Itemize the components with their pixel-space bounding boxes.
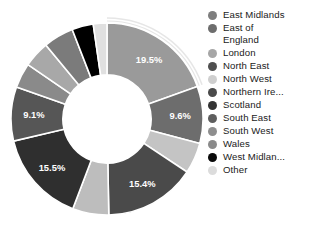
legend-swatch-icon <box>208 75 217 84</box>
donut-plot-area: 19.5%9.6%15.4%15.5%9.1% <box>8 8 206 230</box>
legend-swatch-icon <box>208 24 217 33</box>
legend-item-other[interactable]: Other <box>208 164 314 176</box>
legend-item-label: London <box>223 47 256 59</box>
slice-value-label-east-midlands: 19.5% <box>136 54 163 65</box>
legend-item-east-of-england[interactable]: East of England <box>208 22 314 46</box>
legend-item-scotland[interactable]: Scotland <box>208 99 314 111</box>
legend-item-label: East Midlands <box>223 9 285 21</box>
legend-item-london[interactable]: London <box>208 47 314 59</box>
legend-item-south-east[interactable]: South East <box>208 112 314 124</box>
legend-item-label: North East <box>223 60 269 72</box>
donut-svg: 19.5%9.6%15.4%15.5%9.1% <box>8 8 206 230</box>
slice-value-label-northern-ire: 15.5% <box>39 162 66 173</box>
legend-item-label: East of England <box>223 22 259 46</box>
legend-swatch-icon <box>208 62 217 71</box>
legend-swatch-icon <box>208 11 217 20</box>
legend-swatch-icon <box>208 153 217 162</box>
legend-item-east-midlands[interactable]: East Midlands <box>208 9 314 21</box>
legend-item-north-east[interactable]: North East <box>208 60 314 72</box>
legend-swatch-icon <box>208 166 217 175</box>
legend-swatch-icon <box>208 114 217 123</box>
legend-item-west-midlan[interactable]: West Midlan... <box>208 151 314 163</box>
slice-value-label-scotland: 9.1% <box>23 109 45 120</box>
legend-item-label: Northern Ire... <box>223 86 284 98</box>
chart-legend: East MidlandsEast of EnglandLondonNorth … <box>208 9 314 233</box>
slice-value-label-east-of-england: 9.6% <box>169 110 191 121</box>
legend-item-label: North West <box>223 73 272 85</box>
legend-item-north-west[interactable]: North West <box>208 73 314 85</box>
slice-value-label-north-east: 15.4% <box>129 178 156 189</box>
legend-item-label: Other <box>223 164 248 176</box>
legend-item-label: West Midlan... <box>223 151 285 163</box>
legend-item-wales[interactable]: Wales <box>208 138 314 150</box>
legend-swatch-icon <box>208 88 217 97</box>
legend-item-south-west[interactable]: South West <box>208 125 314 137</box>
donut-chart-widget: 19.5%9.6%15.4%15.5%9.1% East MidlandsEas… <box>0 0 316 237</box>
legend-swatch-icon <box>208 140 217 149</box>
legend-item-label: Scotland <box>223 99 261 111</box>
legend-item-label: South East <box>223 112 271 124</box>
legend-swatch-icon <box>208 49 217 58</box>
legend-item-label: South West <box>223 125 273 137</box>
legend-item-northern-ire[interactable]: Northern Ire... <box>208 86 314 98</box>
legend-item-label: Wales <box>223 138 250 150</box>
legend-swatch-icon <box>208 127 217 136</box>
legend-swatch-icon <box>208 101 217 110</box>
